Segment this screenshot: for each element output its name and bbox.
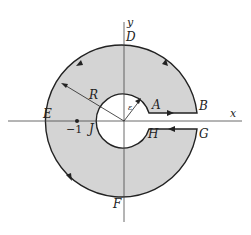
label-minus-one: −1 <box>66 124 82 135</box>
label-E: E <box>43 108 52 120</box>
label-A: A <box>152 99 161 111</box>
x-axis-label: x <box>230 108 236 119</box>
label-H: H <box>148 128 158 140</box>
label-J: J <box>89 123 94 135</box>
label-G: G <box>199 128 209 140</box>
label-B: B <box>199 100 208 112</box>
label-epsilon: ε <box>128 104 132 112</box>
label-F: F <box>113 198 121 210</box>
label-R: R <box>89 89 98 101</box>
label-D: D <box>126 31 136 43</box>
y-axis-label: y <box>127 17 133 28</box>
